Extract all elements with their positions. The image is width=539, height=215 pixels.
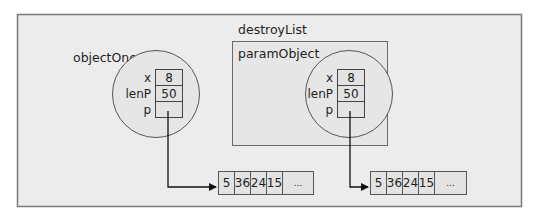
paramobject-label: paramObject xyxy=(238,46,319,61)
objectone-field-x-name: x xyxy=(144,71,151,85)
array1-cell-0: 5 xyxy=(223,176,231,190)
array1-cell-ellipsis: ... xyxy=(294,178,303,188)
array2-cell-1: 36 xyxy=(387,176,402,190)
objectone-field-p-name: p xyxy=(143,103,151,117)
array-2: 5 36 24 15 ... xyxy=(371,172,467,195)
array2-cell-ellipsis: ... xyxy=(446,178,455,188)
objectone-field-lenp-name: lenP xyxy=(125,87,151,101)
array-1: 5 36 24 15 ... xyxy=(219,172,314,195)
paramobject-field-p-name: p xyxy=(325,103,333,117)
paramobject-field-x-name: x xyxy=(326,71,333,85)
array1-cell-3: 15 xyxy=(267,176,282,190)
objectone-field-x-value: 8 xyxy=(165,71,173,85)
array1-cell-2: 24 xyxy=(251,176,266,190)
paramobject-field-lenp-name: lenP xyxy=(307,87,333,101)
diagram-canvas: destroyList paramObject objectOne x lenP… xyxy=(0,0,539,215)
array2-cell-0: 5 xyxy=(375,176,383,190)
array2-cell-2: 24 xyxy=(403,176,418,190)
array2-cell-3: 15 xyxy=(419,176,434,190)
paramobject-field-x-value: 8 xyxy=(347,71,355,85)
objectone-field-lenp-value: 50 xyxy=(161,87,176,101)
paramobject-field-lenp-value: 50 xyxy=(343,87,358,101)
destroylist-label: destroyList xyxy=(238,22,307,37)
array1-cell-1: 36 xyxy=(235,176,250,190)
